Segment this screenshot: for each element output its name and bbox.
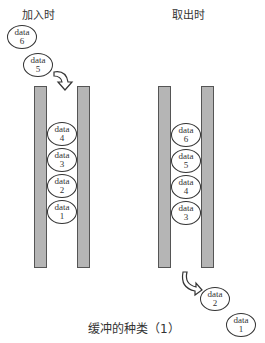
arrow-into-buffer-icon	[54, 72, 72, 90]
figure-caption: 缓冲的种类（1）	[88, 319, 180, 336]
arrows-layer	[0, 0, 265, 343]
arrow-out-of-buffer-icon	[183, 272, 203, 295]
